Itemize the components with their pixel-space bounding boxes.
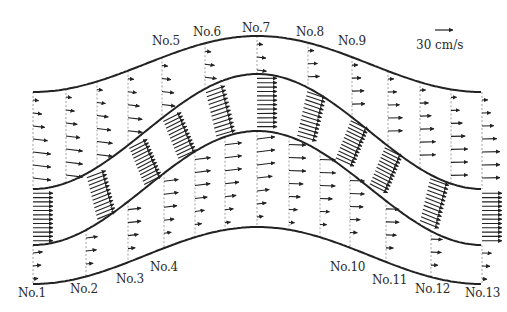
velocity-arrow-icon — [289, 144, 306, 145]
section-label: No.9 — [338, 34, 366, 48]
velocity-arrow-icon — [128, 92, 137, 93]
velocity-arrow-icon — [164, 232, 171, 233]
velocity-arrow-icon — [426, 194, 445, 201]
section-label: No.13 — [465, 286, 500, 300]
velocity-arrow-icon — [427, 190, 446, 197]
section-label: No.7 — [242, 21, 270, 35]
velocity-arrow-icon — [169, 126, 187, 135]
velocity-arrow-icon — [195, 210, 205, 211]
velocity-arrow-icon — [339, 151, 357, 160]
velocity-arrow-icon — [66, 149, 83, 151]
velocity-arrow-icon — [377, 167, 395, 176]
velocity-arrow-icon — [33, 139, 48, 141]
section-label: No.6 — [193, 25, 221, 39]
velocity-arrow-icon — [195, 171, 211, 173]
velocity-arrow-icon — [128, 118, 142, 120]
velocity-arrow-icon — [66, 123, 77, 124]
velocity-arrow-icon — [162, 91, 174, 93]
scale-label: 30 cm/s — [416, 38, 463, 52]
section-label: No.10 — [330, 260, 365, 274]
section-label: No.2 — [70, 282, 98, 296]
velocity-arrow-icon — [375, 171, 393, 180]
velocity-arrow-icon — [93, 197, 112, 204]
velocity-arrow-icon — [97, 142, 113, 144]
velocity-arrow-icon — [171, 133, 189, 142]
velocity-arrow-icon — [425, 202, 444, 209]
velocity-arrow-icon — [93, 193, 112, 200]
velocity-arrow-icon — [320, 185, 335, 186]
section-label: No.8 — [296, 25, 324, 39]
velocity-arrow-icon — [205, 77, 217, 78]
velocity-arrow-icon — [257, 57, 266, 58]
velocity-arrow-icon — [95, 204, 114, 211]
velocity-arrow-icon — [374, 174, 392, 183]
section-label: No.11 — [372, 273, 407, 287]
velocity-arrow-icon — [205, 64, 215, 65]
velocity-arrow-icon — [173, 136, 191, 145]
velocity-arrow-icon — [373, 177, 391, 186]
velocity-arrow-icon — [257, 44, 263, 45]
velocity-arrow-icon — [128, 79, 134, 80]
velocity-arrow-icon — [382, 154, 400, 163]
velocity-arrow-icon — [97, 155, 113, 157]
velocity-arrow-icon — [97, 116, 108, 117]
velocity-arrow-icon — [97, 129, 111, 131]
section-label: No.5 — [152, 34, 180, 48]
velocity-arrow-icon — [426, 198, 445, 205]
velocity-arrow-icon — [170, 130, 188, 139]
velocity-arrow-icon — [257, 176, 272, 178]
velocity-arrow-icon — [289, 170, 306, 171]
velocity-arrow-icon — [66, 97, 72, 98]
velocity-arrow-icon — [33, 252, 43, 253]
velocity-arrow-icon — [225, 156, 242, 158]
velocity-arrow-icon — [86, 263, 93, 264]
velocity-arrow-icon — [257, 70, 267, 71]
velocity-arrow-icon — [257, 163, 275, 165]
velocity-arrow-icon — [66, 110, 75, 111]
velocity-arrow-icon — [164, 180, 178, 182]
velocity-arrow-icon — [337, 154, 355, 162]
velocity-arrow-icon — [66, 162, 83, 164]
velocity-arrow-icon — [379, 161, 397, 170]
velocity-arrow-icon — [257, 203, 266, 204]
velocity-arrow-icon — [33, 100, 39, 101]
velocity-arrow-icon — [89, 178, 108, 185]
velocity-arrow-icon — [128, 221, 141, 223]
section-label: No.12 — [415, 282, 450, 296]
velocity-arrow-icon — [195, 197, 207, 198]
velocity-arrow-icon — [33, 113, 42, 114]
velocity-arrow-icon — [340, 148, 358, 157]
velocity-arrow-icon — [195, 184, 210, 186]
velocity-arrow-icon — [167, 123, 185, 132]
velocity-arrow-icon — [225, 143, 242, 145]
velocity-arrow-icon — [381, 158, 399, 167]
velocity-arrow-icon — [162, 78, 171, 79]
velocity-arrow-icon — [350, 193, 365, 194]
velocity-arrow-icon — [162, 104, 175, 106]
velocity-arrow-icon — [128, 248, 135, 249]
velocity-arrow-icon — [422, 213, 441, 220]
velocity-arrow-icon — [205, 51, 211, 52]
velocity-arrow-icon — [164, 206, 177, 208]
velocity-arrow-icon — [383, 151, 401, 160]
velocity-arrow-icon — [348, 127, 366, 136]
velocity-arrow-icon — [371, 180, 389, 189]
velocity-arrow-icon — [164, 219, 174, 220]
velocity-arrow-icon — [423, 209, 442, 216]
velocity-arrow-icon — [289, 157, 306, 158]
section-label: No.1 — [18, 286, 46, 300]
velocity-arrow-icon — [135, 153, 153, 162]
velocity-arrow-icon — [97, 90, 103, 91]
velocity-arrow-icon — [257, 216, 263, 217]
velocity-arrow-icon — [162, 65, 168, 66]
velocity-arrow-icon — [86, 250, 97, 251]
velocity-arrow-icon — [225, 222, 231, 223]
velocity-arrow-icon — [139, 162, 157, 171]
section-label: No.4 — [150, 260, 178, 274]
velocity-arrow-icon — [140, 166, 158, 175]
velocity-arrow-icon — [33, 152, 51, 154]
velocity-arrow-icon — [137, 159, 155, 168]
floodplain-bottom-bank — [33, 227, 481, 284]
velocity-arrow-icon — [128, 208, 141, 210]
velocity-arrow-icon — [136, 156, 154, 165]
